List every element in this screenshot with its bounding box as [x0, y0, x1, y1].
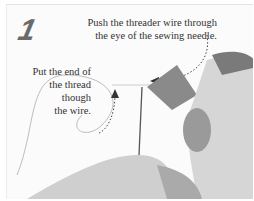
caption-push-wire: Push the threader wire through the eye o…	[57, 16, 217, 42]
caption-line: the wire.	[27, 104, 91, 117]
caption-line: the thread	[27, 78, 91, 91]
caption-thread-wire: Put the end of the thread though the wir…	[27, 65, 91, 117]
caption-line: the eye of the sewing needle.	[57, 29, 217, 42]
photo-panel: 1 Push the threader wire through the eye…	[6, 4, 253, 199]
instruction-figure: 1 Push the threader wire through the eye…	[0, 0, 254, 201]
caption-line: Put the end of	[27, 65, 91, 78]
caption-line: Push the threader wire through	[57, 16, 217, 29]
caption-line: though	[27, 91, 91, 104]
